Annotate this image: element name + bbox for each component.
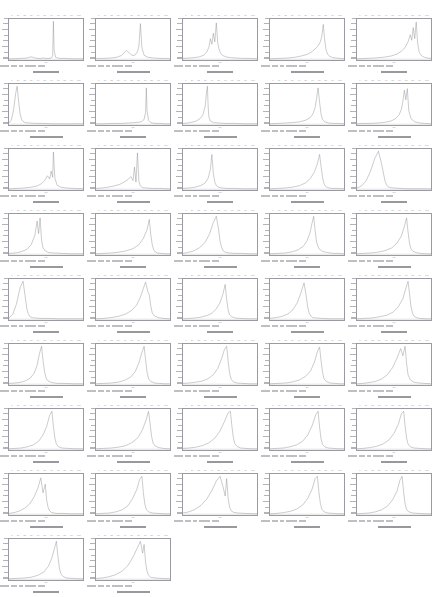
plot-frame[interactable] — [269, 278, 345, 321]
plot-frame[interactable] — [182, 343, 258, 386]
spectrum-panel[interactable]: 0102030405060708090100m/z — [261, 273, 346, 337]
spectrum-panel[interactable]: 0102030405060708090100m/z — [87, 533, 172, 597]
spectrum-panel[interactable]: 0102030405060708090100m/z — [174, 13, 259, 77]
legend-entry — [25, 325, 36, 327]
plot-frame[interactable] — [95, 343, 171, 386]
plot-frame[interactable] — [95, 83, 171, 126]
spectrum-panel[interactable]: 0102030405060708090100m/z — [348, 78, 433, 142]
plot-frame[interactable] — [356, 213, 432, 256]
plot-frame[interactable] — [182, 148, 258, 191]
spectrum-panel[interactable]: 0102030405060708090100m/z — [87, 13, 172, 77]
spectrum-panel[interactable]: 0102030405060708090100m/z — [348, 403, 433, 467]
plot-frame[interactable] — [356, 148, 432, 191]
legend-entry — [286, 195, 297, 197]
spectrum-panel[interactable]: 0102030405060708090100m/z — [348, 143, 433, 207]
spectrum-panel[interactable]: 0102030405060708090100m/z — [261, 403, 346, 467]
spectrum-panel[interactable]: 0102030405060708090100m/z — [0, 13, 85, 77]
plot-frame[interactable] — [182, 278, 258, 321]
plot-frame[interactable] — [8, 278, 84, 321]
plot-frame[interactable] — [95, 473, 171, 516]
plot-frame[interactable] — [269, 343, 345, 386]
spectrum-panel[interactable]: 0102030405060708090100m/z — [261, 13, 346, 77]
spectrum-panel[interactable]: 0102030405060708090100m/z — [261, 208, 346, 272]
spectrum-panel[interactable]: 0102030405060708090100m/z — [0, 273, 85, 337]
plot-frame[interactable] — [269, 148, 345, 191]
spectrum-panel[interactable]: 0102030405060708090100m/z — [87, 468, 172, 532]
legend-entry — [261, 130, 270, 132]
plot-frame[interactable] — [8, 18, 84, 61]
legend-entry — [0, 260, 9, 262]
plot-frame[interactable] — [356, 473, 432, 516]
plot-area — [357, 149, 431, 190]
plot-frame[interactable] — [8, 538, 84, 581]
plot-frame[interactable] — [269, 83, 345, 126]
legend-entry — [212, 130, 219, 132]
panel-legend — [0, 259, 85, 263]
plot-frame[interactable] — [356, 83, 432, 126]
plot-frame[interactable] — [8, 408, 84, 451]
plot-area — [183, 19, 257, 60]
plot-frame[interactable] — [182, 213, 258, 256]
plot-frame[interactable] — [95, 278, 171, 321]
legend-entry — [359, 520, 365, 522]
plot-frame[interactable] — [182, 83, 258, 126]
legend-entry — [0, 130, 9, 132]
spectrum-panel[interactable]: 0102030405060708090100m/z — [174, 273, 259, 337]
plot-frame[interactable] — [182, 18, 258, 61]
plot-frame[interactable] — [269, 18, 345, 61]
plot-frame[interactable] — [95, 213, 171, 256]
spectrum-panel[interactable]: 0102030405060708090100m/z — [174, 403, 259, 467]
spectrum-panel[interactable]: 0102030405060708090100m/z — [348, 273, 433, 337]
legend-entry — [185, 520, 191, 522]
spectrum-panel[interactable]: 0102030405060708090100m/z — [0, 143, 85, 207]
spectrum-panel[interactable]: 0102030405060708090100m/z — [0, 208, 85, 272]
spectrum-panel[interactable]: 0102030405060708090100m/z — [0, 468, 85, 532]
spectrum-panel[interactable]: 0102030405060708090100m/z — [261, 143, 346, 207]
plot-frame[interactable] — [356, 343, 432, 386]
plot-frame[interactable] — [8, 213, 84, 256]
spectrum-panel[interactable]: 0102030405060708090100m/z — [87, 143, 172, 207]
spectrum-panel[interactable]: 0102030405060708090100m/z — [87, 273, 172, 337]
plot-frame[interactable] — [8, 343, 84, 386]
plot-frame[interactable] — [8, 473, 84, 516]
spectrum-panel[interactable]: 0102030405060708090100m/z — [0, 338, 85, 402]
plot-area — [357, 474, 431, 515]
plot-frame[interactable] — [269, 408, 345, 451]
plot-frame[interactable] — [356, 278, 432, 321]
spectrum-panel[interactable]: 0102030405060708090100m/z — [87, 208, 172, 272]
spectrum-panel[interactable]: 0102030405060708090100m/z — [174, 468, 259, 532]
plot-frame[interactable] — [269, 473, 345, 516]
plot-frame[interactable] — [95, 18, 171, 61]
spectrum-panel[interactable]: 0102030405060708090100m/z — [174, 143, 259, 207]
plot-frame[interactable] — [8, 83, 84, 126]
spectrum-panel[interactable]: 0102030405060708090100m/z — [348, 338, 433, 402]
plot-frame[interactable] — [182, 473, 258, 516]
legend-entry — [0, 455, 9, 457]
spectrum-panel[interactable]: 0102030405060708090100m/z — [87, 338, 172, 402]
plot-frame[interactable] — [8, 148, 84, 191]
spectrum-panel[interactable]: 0102030405060708090100m/z — [87, 403, 172, 467]
plot-frame[interactable] — [182, 408, 258, 451]
spectrum-panel[interactable]: 0102030405060708090100m/z — [261, 468, 346, 532]
spectrum-panel[interactable]: 0102030405060708090100m/z — [261, 78, 346, 142]
spectrum-panel[interactable]: 0102030405060708090100m/z — [174, 338, 259, 402]
spectrum-panel[interactable]: 0102030405060708090100m/z — [348, 13, 433, 77]
legend-entry — [199, 390, 210, 392]
plot-frame[interactable] — [356, 408, 432, 451]
spectrum-panel[interactable]: 0102030405060708090100m/z — [261, 338, 346, 402]
spectrum-panel[interactable]: 0102030405060708090100m/z — [348, 208, 433, 272]
plot-frame[interactable] — [269, 213, 345, 256]
spectrum-panel[interactable]: 0102030405060708090100m/z — [348, 468, 433, 532]
spectrum-panel[interactable]: 0102030405060708090100m/z — [174, 78, 259, 142]
plot-frame[interactable] — [95, 148, 171, 191]
spectrum-panel[interactable]: 0102030405060708090100m/z — [174, 208, 259, 272]
legend-entry — [112, 455, 123, 457]
plot-frame[interactable] — [356, 18, 432, 61]
spectrum-panel[interactable]: 0102030405060708090100m/z — [87, 78, 172, 142]
plot-frame[interactable] — [95, 538, 171, 581]
spectrum-panel[interactable]: 0102030405060708090100m/z — [0, 403, 85, 467]
panel-legend — [261, 194, 346, 198]
spectrum-panel[interactable]: 0102030405060708090100m/z — [0, 78, 85, 142]
plot-frame[interactable] — [95, 408, 171, 451]
spectrum-panel[interactable]: 0102030405060708090100m/z — [0, 533, 85, 597]
